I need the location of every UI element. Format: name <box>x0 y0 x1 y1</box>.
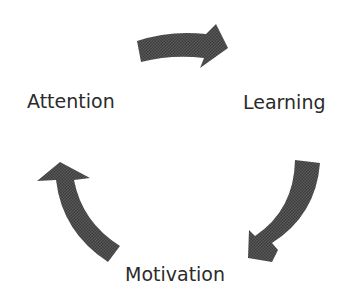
curved-arrow-right-icon <box>137 24 228 68</box>
cycle-diagram: Attention Learning Motivation <box>0 0 360 298</box>
curved-arrow-up-icon <box>37 162 120 262</box>
node-learning-label: Learning <box>243 93 326 112</box>
node-attention-label: Attention <box>27 92 115 111</box>
node-motivation-label: Motivation <box>125 265 225 284</box>
arrows-layer <box>0 0 360 298</box>
curved-arrow-down-left-icon <box>248 160 320 262</box>
